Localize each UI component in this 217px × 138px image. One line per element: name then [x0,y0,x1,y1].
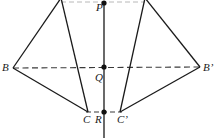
b-to-c-line [13,68,88,112]
point-label-c-prime: C’ [117,114,128,125]
point-marker-r [101,109,106,114]
point-label-c: C [83,114,90,125]
apex-left-to-b-line [13,0,61,68]
point-label-r: R [95,114,102,125]
point-marker-q [101,64,106,69]
point-label-b-prime: B’ [203,62,213,73]
geometry-diagram [0,0,217,138]
point-label-q: Q [95,72,103,83]
point-label-b: B [2,62,9,73]
cprime-to-apex-right-line [120,0,145,112]
apex-right-to-bprime-line [145,0,200,67]
point-label-p: P [96,2,103,13]
bprime-to-cprime-line [120,67,200,112]
c-to-apex-left-line [61,0,88,112]
